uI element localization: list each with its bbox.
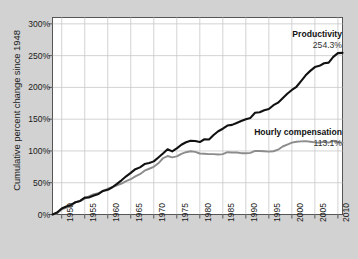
x-tick-label: 1980 <box>203 203 213 222</box>
x-tick-label: 1955 <box>88 203 98 222</box>
productivity-compensation-chart: Cumulative percent change since 1948 0%5… <box>0 0 358 259</box>
x-tick-label: 2005 <box>318 203 328 222</box>
x-tick-label: 1970 <box>157 203 167 222</box>
productivity-value: 254.3% <box>313 40 342 50</box>
x-tick-label: 2010 <box>341 203 351 222</box>
x-tick-label: 1985 <box>226 203 236 222</box>
productivity-label: Productivity <box>292 29 342 39</box>
x-tick-label: 1960 <box>111 203 121 222</box>
x-tick-label: 1950 <box>65 203 75 222</box>
x-tick-label: 1965 <box>134 203 144 222</box>
x-tick-label: 2000 <box>295 203 305 222</box>
hourly-compensation-value: 113.1% <box>313 138 342 148</box>
x-tick-label: 1990 <box>249 203 259 222</box>
x-tick-label: 1995 <box>272 203 282 222</box>
x-tick-label: 1975 <box>180 203 190 222</box>
hourly-compensation-label: Hourly compensation <box>254 127 342 137</box>
